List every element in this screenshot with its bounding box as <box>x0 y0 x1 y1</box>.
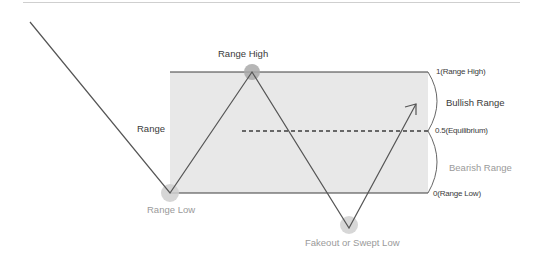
bearish-bracket <box>428 131 437 193</box>
bullish-range-label: Bullish Range <box>446 98 505 108</box>
level-mid-label: 0.5(Equilibrium) <box>435 127 488 135</box>
range-low-label: Range Low <box>147 205 195 215</box>
swept-low-label: Fakeout or Swept Low <box>305 238 400 248</box>
range-diagram <box>0 0 538 273</box>
level-high-label: 1(Range High) <box>436 68 485 76</box>
level-low-label: 0(Range Low) <box>433 190 481 198</box>
range-high-label: Range High <box>218 49 268 59</box>
range-label: Range <box>137 124 165 134</box>
bullish-bracket <box>428 72 437 131</box>
range-box <box>170 72 428 193</box>
bearish-range-label: Bearish Range <box>449 163 512 173</box>
